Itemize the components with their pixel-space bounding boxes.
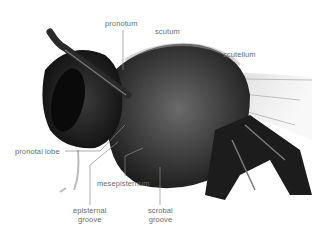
- label-scutellum: scutellum: [223, 50, 256, 59]
- label-episternal-line1: episternal: [73, 206, 107, 215]
- label-pronotal-lobe: pronotal lobe: [15, 147, 60, 156]
- bee-anatomy-diagram: pronotum scutum scutellum pronotal lobe …: [0, 0, 325, 234]
- label-scrobal-groove: scrobal groove: [148, 206, 173, 224]
- label-episternal-line2: groove: [78, 215, 102, 224]
- label-mesepisternum: mesepisternum: [97, 179, 150, 188]
- label-scrobal-line2: groove: [149, 215, 173, 224]
- label-episternal-groove: episternal groove: [73, 206, 107, 224]
- label-pronotum: pronotum: [105, 19, 138, 28]
- label-scutum: scutum: [155, 27, 180, 36]
- label-scrobal-line1: scrobal: [148, 206, 173, 215]
